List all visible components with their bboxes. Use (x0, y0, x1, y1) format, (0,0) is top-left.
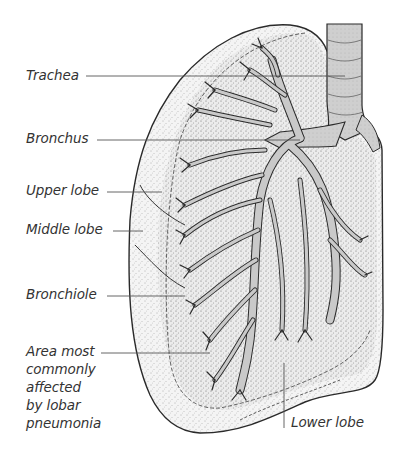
label-middle-lobe: Middle lobe (26, 220, 103, 238)
label-area-pneumonia: Area most commonly affected by lobar pne… (26, 342, 101, 432)
label-lower-lobe: Lower lobe (291, 413, 364, 431)
label-bronchus: Bronchus (26, 129, 88, 147)
lung-diagram: Trachea Bronchus Upper lobe Middle lobe … (0, 0, 405, 454)
label-bronchiole: Bronchiole (26, 285, 97, 303)
label-upper-lobe: Upper lobe (26, 181, 99, 199)
label-trachea: Trachea (26, 66, 79, 84)
